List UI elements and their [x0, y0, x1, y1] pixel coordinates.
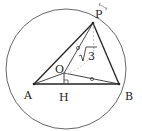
dashed-line-P-down — [93, 23, 94, 50]
geometry-diagram: P A B O H 3 — [0, 0, 142, 131]
label-B: B — [125, 90, 133, 103]
point-B — [118, 83, 121, 86]
label-H: H — [59, 91, 69, 104]
point-P — [92, 22, 95, 25]
label-sqrt3-value: 3 — [88, 50, 95, 63]
label-A: A — [23, 89, 33, 102]
label-O: O — [55, 63, 64, 76]
point-A — [33, 83, 36, 86]
segment-OB — [64, 73, 119, 84]
segment-PB — [93, 23, 119, 84]
label-P: P — [95, 8, 103, 21]
